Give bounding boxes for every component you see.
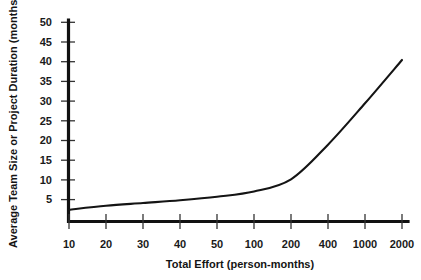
x-tick-label: 10 (63, 238, 75, 250)
y-tick-label: 45 (40, 36, 52, 48)
y-tick-label: 40 (40, 55, 52, 67)
x-tick-label: 200 (282, 238, 300, 250)
data-curve (69, 60, 402, 210)
figure-caption (0, 273, 421, 280)
y-tick-label: 5 (46, 193, 52, 205)
y-tick-label: 35 (40, 75, 52, 87)
x-tick-label: 100 (245, 238, 263, 250)
x-tick-label: 1000 (353, 238, 377, 250)
chart-figure: 50 45 40 35 30 25 20 15 10 5 (0, 0, 421, 280)
y-tick-label: 30 (40, 95, 52, 107)
x-tick-label: 40 (174, 238, 186, 250)
x-tick-label: 20 (100, 238, 112, 250)
y-tick-label: 10 (40, 174, 52, 186)
y-axis-tick-labels: 50 45 40 35 30 25 20 15 10 5 (40, 16, 52, 205)
y-tick-label: 15 (40, 154, 52, 166)
y-tick-label: 20 (40, 134, 52, 146)
axis-frame (69, 20, 409, 222)
effort-duration-line-chart: 50 45 40 35 30 25 20 15 10 5 (0, 0, 421, 280)
x-tick-label: 2000 (390, 238, 414, 250)
x-tick-label: 50 (211, 238, 223, 250)
y-tick-label: 50 (40, 16, 52, 28)
x-tick-label: 400 (319, 238, 337, 250)
y-axis-title: Average Team Size or Project Duration (m… (7, 0, 19, 248)
x-tick-label: 30 (137, 238, 149, 250)
y-tick-label: 25 (40, 115, 52, 127)
x-axis-tick-labels: 10 20 30 40 50 100 200 400 1000 2000 (63, 238, 414, 250)
x-axis-title: Total Effort (person-months) (166, 258, 315, 270)
